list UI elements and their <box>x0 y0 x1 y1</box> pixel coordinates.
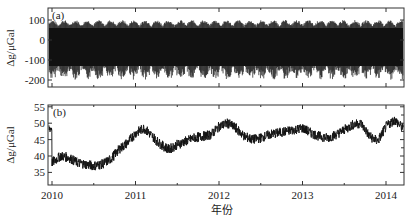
panel-b-label: (b) <box>53 106 66 119</box>
y-tick-label: 55 <box>34 101 46 113</box>
panel-b-y-axis-title: Δg/μGal <box>4 126 16 163</box>
y-tick-label: 0 <box>40 34 46 46</box>
y-tick-label: 45 <box>34 134 46 146</box>
panel-a-y-axis-title: Δg/μGal <box>4 29 16 66</box>
panel-b-frame <box>48 105 404 185</box>
panel-b: 5550454035 20102011201220132014 (b) Δg/μ… <box>4 101 404 201</box>
y-tick-label: 100 <box>29 14 46 26</box>
panel-b-series <box>49 117 403 170</box>
x-tick-label: 2014 <box>375 189 398 201</box>
y-tick-label: -200 <box>25 74 46 86</box>
y-tick-label: 50 <box>34 117 46 129</box>
panel-b-x-ticks: 20102011201220132014 <box>41 105 398 201</box>
panel-a-series <box>49 20 403 80</box>
panel-b-y-ticks: 5550454035 <box>34 101 404 179</box>
x-tick-label: 2010 <box>41 189 64 201</box>
panel-a-label: (a) <box>52 9 65 22</box>
figure: 1000-100-200 (a) Δg/μGal 5550454035 2010… <box>0 0 410 222</box>
y-tick-label: -100 <box>25 54 46 66</box>
x-tick-label: 2012 <box>208 189 230 201</box>
y-tick-label: 40 <box>34 150 46 162</box>
x-axis-title: 年份 <box>211 203 233 217</box>
panel-a: 1000-100-200 (a) Δg/μGal <box>4 8 404 87</box>
x-tick-label: 2013 <box>292 189 315 201</box>
y-tick-label: 35 <box>34 166 46 178</box>
x-tick-label: 2011 <box>125 189 147 201</box>
